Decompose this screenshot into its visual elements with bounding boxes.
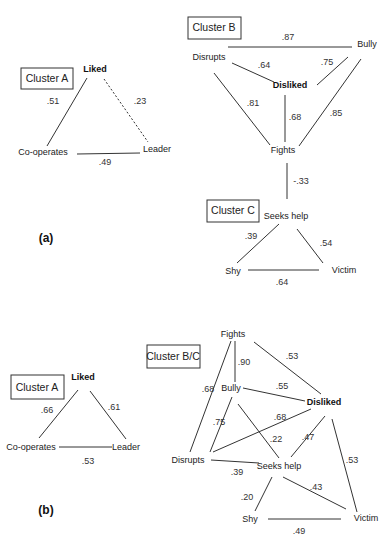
node-leader: Leader (143, 144, 171, 154)
node-disrupts: Disrupts (171, 455, 205, 465)
weight-liked-cooperates: .66 (41, 405, 54, 415)
cluster-b-label: Cluster B (192, 21, 235, 33)
edge-disrupts-fights (214, 73, 270, 145)
weight-disrupts-bully: .87 (282, 32, 295, 42)
node-disliked: Disliked (307, 397, 342, 407)
node-leader: Leader (112, 442, 140, 452)
weight-disliked-fights: .68 (289, 112, 302, 122)
weight-fights-disrupts: .68 (202, 384, 215, 394)
weight-liked-leader: .23 (134, 96, 147, 106)
edge-cooperates-leader (77, 153, 140, 154)
cluster-bc-label: Cluster B/C (146, 350, 200, 362)
weight-seeks-help-shy: .20 (241, 492, 254, 502)
edge-disrupts-seeks-help (211, 460, 259, 463)
weight-disliked-disrupts: .68 (274, 412, 287, 422)
node-fights: Fights (271, 145, 296, 155)
weight-seeks-shy: .39 (245, 231, 258, 241)
node-co-operates: Co-operates (18, 147, 68, 157)
weight-disliked-victim: .53 (346, 455, 359, 465)
weight-fights-disliked: .53 (286, 351, 299, 361)
node-shy: Shy (242, 514, 258, 524)
panel-a-cluster-a: Cluster A Liked Co-operates Leader .51 .… (18, 64, 171, 167)
weight-shy-victim: .49 (293, 526, 306, 536)
node-seeks-help: Seeks help (257, 461, 302, 471)
edge-disliked-disrupts (213, 409, 311, 452)
weight-fights-seeks-help: -.33 (293, 176, 309, 186)
panel-b: Cluster A Liked Co-operates Leader .66 .… (6, 329, 378, 536)
edge-disliked-victim (332, 419, 357, 512)
panel-b-cluster-a: Cluster A Liked Co-operates Leader .66 .… (6, 372, 140, 466)
weight-bully-fights: .85 (330, 108, 343, 118)
weight-seeks-help-victim: .43 (310, 482, 323, 492)
weight-bully-disrupts: .75 (213, 417, 226, 427)
node-shy: Shy (225, 266, 241, 276)
node-liked: Liked (71, 372, 95, 382)
weight-shy-victim: .64 (276, 277, 289, 287)
weight-disrupts-seeks-help: .39 (231, 467, 244, 477)
node-seeks-help: Seeks help (264, 211, 309, 221)
weight-disrupts-fights: .81 (247, 98, 260, 108)
panel-a: Cluster A Liked Co-operates Leader .51 .… (18, 17, 377, 287)
node-victim: Victim (354, 513, 378, 523)
panel-b-cluster-bc: Cluster B/C Fights Bully Disliked Disrup… (146, 329, 378, 536)
weight-fights-bully: .90 (238, 357, 251, 367)
weight-disliked-seeks-help: .47 (302, 432, 315, 442)
panel-a-label: (a) (39, 231, 54, 245)
weight-liked-cooperates: .51 (47, 96, 60, 106)
edge-bully-fights (299, 59, 361, 146)
weight-disrupts-disliked: .64 (258, 60, 271, 70)
weight-cooperates-leader: .53 (82, 456, 95, 466)
cluster-a-label: Cluster A (26, 72, 69, 84)
node-co-operates: Co-operates (6, 442, 56, 452)
weight-cooperates-leader: .49 (99, 157, 112, 167)
node-fights: Fights (221, 329, 246, 339)
weight-bully-disliked: .75 (321, 57, 334, 67)
cluster-c-label: Cluster C (211, 204, 255, 216)
panel-a-cluster-c: Cluster C Seeks help Shy Victim .39 .54 … (207, 200, 356, 287)
weight-seeks-victim: .54 (320, 238, 333, 248)
weight-bully-disliked: .55 (276, 381, 289, 391)
edge-liked-leader (90, 391, 126, 439)
cluster-a-label: Cluster A (16, 381, 59, 393)
cluster-diagram: Cluster A Liked Co-operates Leader .51 .… (0, 0, 391, 547)
edge-seeks-help-shy (255, 477, 272, 511)
node-disliked: Disliked (273, 80, 308, 90)
edge-seeks-shy (237, 224, 279, 263)
node-bully: Bully (357, 39, 377, 49)
panel-b-label: (b) (38, 503, 53, 517)
node-disrupts: Disrupts (192, 52, 226, 62)
weight-bully-seeks-help: .22 (270, 434, 283, 444)
node-victim: Victim (332, 265, 356, 275)
panel-a-cluster-b: Cluster B Disrupts Bully Disliked Fights… (188, 17, 377, 155)
edge-bully-disliked (243, 388, 305, 401)
edge-liked-leader (104, 79, 148, 142)
weight-liked-leader: .61 (108, 402, 121, 412)
node-liked: Liked (83, 64, 107, 74)
node-bully: Bully (221, 383, 241, 393)
